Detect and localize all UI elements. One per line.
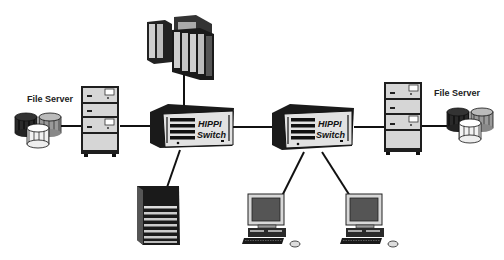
hippi-switch-left-icon: HIPPI Switch — [150, 104, 234, 148]
storage-array-icon — [137, 186, 180, 245]
switch-left-label-line1: HIPPI — [198, 119, 222, 129]
switch-right-label-line1: HIPPI — [318, 119, 342, 129]
workstation-2-icon — [340, 194, 398, 247]
file-server-left-icon — [81, 86, 119, 157]
link-switch-workstation1 — [282, 152, 304, 196]
file-server-left-label: File Server — [27, 94, 74, 104]
link-switch-workstation2 — [322, 152, 350, 196]
diagram-canvas: File Server HIPPI Switch HIPPI Switch — [0, 0, 504, 260]
disk-stack-right-icon — [447, 108, 493, 143]
disk-stack-left-icon — [15, 113, 61, 148]
file-server-right-label: File Server — [434, 88, 481, 98]
switch-left-label-line2: Switch — [197, 130, 227, 140]
switch-right-label-line2: Switch — [316, 130, 346, 140]
supercomputer-icon — [147, 15, 214, 80]
workstation-1-icon — [242, 194, 300, 247]
hippi-network-diagram: File Server HIPPI Switch HIPPI Switch — [0, 0, 504, 260]
hippi-switch-right-icon: HIPPI Switch — [272, 104, 354, 150]
file-server-right-icon — [384, 82, 422, 155]
